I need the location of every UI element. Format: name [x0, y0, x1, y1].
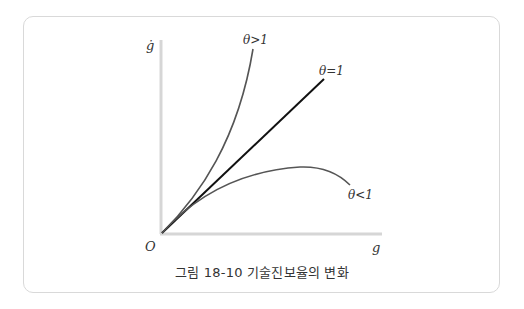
label-theta-less: θ<1: [348, 188, 373, 202]
y-axis-label: ġ: [146, 38, 154, 53]
x-axis-label: g: [372, 240, 380, 255]
curve-theta-greater-than-1: [162, 49, 253, 233]
label-theta-equal: θ=1: [319, 64, 344, 78]
label-theta-greater: θ>1: [243, 33, 268, 47]
origin-label: O: [145, 239, 156, 254]
figure-caption: 그림 18-10 기술진보율의 변화: [0, 262, 524, 281]
